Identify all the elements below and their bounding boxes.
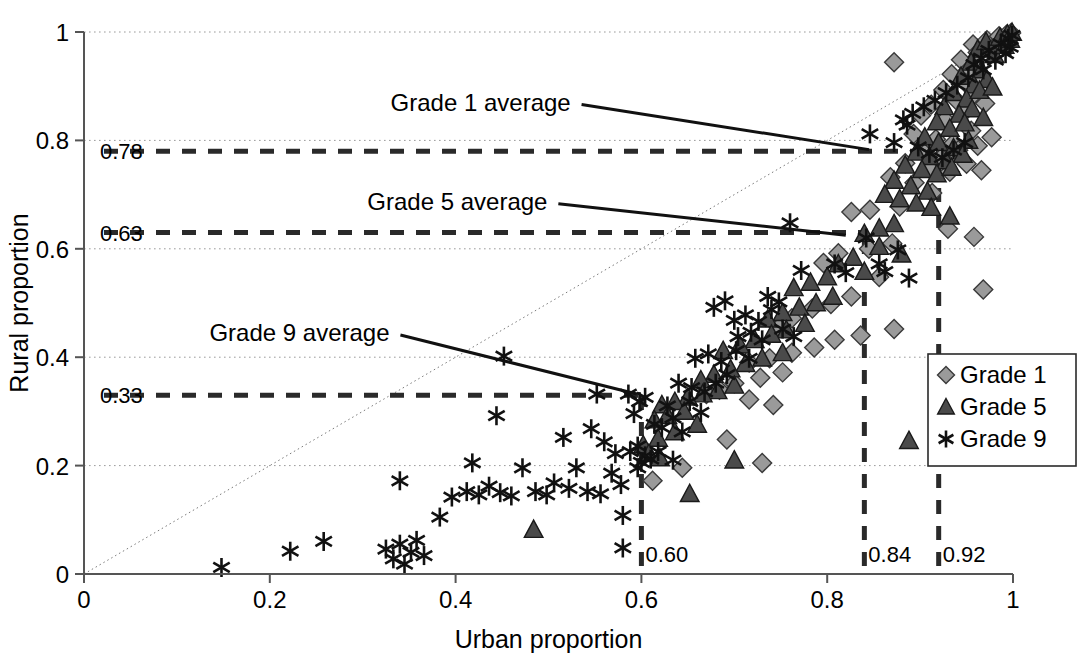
legend-item-label: Grade 9 (960, 425, 1047, 452)
svg-text:0.60: 0.60 (645, 542, 688, 567)
y-axis-title: Rural proportion (5, 213, 33, 392)
svg-text:0.84: 0.84 (868, 542, 911, 567)
axis-titles-group: Urban proportionRural proportion (5, 213, 642, 653)
annotation-group: Grade 1 averageGrade 5 averageGrade 9 av… (209, 89, 869, 394)
series-grade-9 (213, 26, 1020, 577)
annotation-leader-line (582, 105, 869, 150)
svg-text:0.78: 0.78 (100, 139, 143, 164)
svg-text:0.8: 0.8 (811, 586, 844, 613)
svg-text:1: 1 (56, 19, 69, 46)
annotation-label: Grade 5 average (367, 188, 547, 215)
legend-item-label: Grade 5 (960, 393, 1047, 420)
svg-text:0: 0 (77, 586, 90, 613)
scatter-chart: 00.20.40.60.8100.20.40.60.81 0.780.920.6… (0, 0, 1087, 666)
annotation-label: Grade 9 average (209, 319, 389, 346)
legend[interactable]: Grade 1Grade 5Grade 9 (928, 354, 1076, 466)
svg-text:0.8: 0.8 (36, 127, 69, 154)
legend-item-label: Grade 1 (960, 361, 1047, 388)
svg-text:0.2: 0.2 (253, 586, 286, 613)
svg-text:0.33: 0.33 (100, 383, 143, 408)
annotation-label: Grade 1 average (391, 89, 571, 116)
svg-text:1: 1 (1006, 586, 1019, 613)
svg-text:0.4: 0.4 (439, 586, 472, 613)
svg-text:0.92: 0.92 (943, 542, 986, 567)
svg-text:0.4: 0.4 (36, 344, 69, 371)
svg-text:0.63: 0.63 (100, 221, 143, 246)
data-points-group (213, 23, 1021, 577)
annotation-leader-line (400, 335, 636, 394)
svg-text:0: 0 (56, 561, 69, 588)
chart-canvas: 00.20.40.60.8100.20.40.60.81 0.780.920.6… (0, 0, 1087, 666)
x-axis-title: Urban proportion (455, 625, 643, 653)
svg-text:0.6: 0.6 (36, 236, 69, 263)
svg-text:0.2: 0.2 (36, 453, 69, 480)
svg-text:0.6: 0.6 (625, 586, 658, 613)
